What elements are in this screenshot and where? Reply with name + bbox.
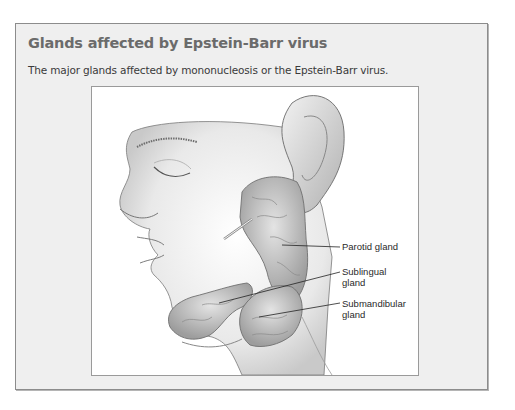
figure-box: Glands affected by Epstein-Barr virus Th… (15, 23, 488, 390)
label-line: gland (342, 309, 365, 320)
gland-illustration: Parotid gland Sublingual gland Submandib… (91, 86, 419, 376)
figure-title: Glands affected by Epstein-Barr virus (28, 35, 327, 51)
head-profile-illustration (92, 87, 418, 375)
sublingual-gland-label: Sublingual gland (342, 266, 386, 288)
submandibular-gland-label: Submandibular gland (342, 298, 406, 320)
label-line: Submandibular (342, 298, 406, 309)
label-line: Parotid gland (342, 241, 398, 252)
label-line: Sublingual (342, 266, 386, 277)
figure-caption: The major glands affected by mononucleos… (28, 64, 388, 76)
label-line: gland (342, 277, 365, 288)
parotid-gland-label: Parotid gland (342, 241, 398, 252)
